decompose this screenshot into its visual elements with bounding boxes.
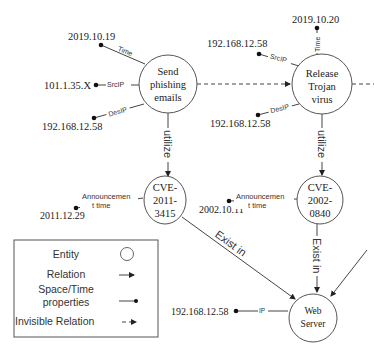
relation-incoming-edge bbox=[331, 250, 367, 296]
svg-text:3415: 3415 bbox=[155, 208, 176, 219]
relation-exist-in-2: Exist in bbox=[311, 223, 323, 292]
legend-spacetime-label: Space/Time bbox=[38, 283, 94, 295]
relation-label: utilize bbox=[316, 130, 328, 158]
legend-relation-label: Relation bbox=[47, 268, 86, 280]
property-dot-icon bbox=[92, 116, 97, 121]
svg-text:2011-: 2011- bbox=[153, 195, 178, 206]
property-label: SrcIP bbox=[107, 81, 124, 88]
property-label: Time bbox=[314, 37, 321, 52]
property-label: DesIP bbox=[270, 103, 291, 114]
property-label: DesIP bbox=[108, 106, 129, 118]
svg-text:0840: 0840 bbox=[310, 208, 331, 219]
relation-exist-in-1: Exist in bbox=[182, 217, 295, 299]
property-dot-icon bbox=[94, 83, 99, 88]
svg-text:phishing: phishing bbox=[150, 79, 187, 90]
property-trojan-desip: 192.168.12.58 DesIP bbox=[210, 100, 299, 129]
svg-text:Release: Release bbox=[306, 68, 339, 79]
property-label: Announcemen bbox=[82, 192, 130, 201]
legend-entity-label: Entity bbox=[53, 248, 80, 260]
property-phish-srcip: 101.1.35.X SrcIP bbox=[44, 80, 139, 91]
relation-utilize-1: utilize bbox=[162, 113, 174, 176]
legend-property-dot-icon bbox=[134, 299, 138, 303]
property-cve2011-announce: 2011.12.29 Announcemen t time bbox=[40, 191, 143, 221]
property-dot-icon bbox=[99, 43, 104, 48]
svg-text:Server: Server bbox=[301, 319, 327, 329]
property-label: IP bbox=[259, 307, 265, 314]
property-label: SrcIP bbox=[269, 52, 288, 64]
property-label: t time bbox=[248, 201, 266, 210]
svg-text:virus: virus bbox=[312, 94, 333, 105]
svg-text:CVE-: CVE- bbox=[308, 182, 333, 193]
property-label: t time bbox=[92, 201, 110, 210]
entity-circle bbox=[289, 294, 337, 342]
property-webserver-ip: 192.168.12.58 IP bbox=[171, 306, 288, 317]
property-value: 192.168.12.58 bbox=[207, 38, 267, 49]
legend-invisible-label: Invisible Relation bbox=[15, 315, 95, 327]
svg-text:CVE-: CVE- bbox=[153, 182, 178, 193]
property-value: 192.168.12.58 bbox=[42, 121, 102, 132]
entity-send-phishing-emails[interactable]: Send phishing emails bbox=[139, 55, 197, 113]
property-value: 192.168.12.58 bbox=[171, 306, 229, 317]
legend: Entity Relation Space/Time properties In… bbox=[14, 240, 158, 337]
property-value: 192.168.12.58 bbox=[210, 118, 270, 129]
svg-text:Web: Web bbox=[304, 306, 321, 316]
property-phish-time: 2019.10.19 Time bbox=[68, 31, 145, 64]
relation-utilize-2: utilize bbox=[316, 114, 328, 175]
property-dot-icon bbox=[227, 199, 232, 204]
property-value: 101.1.35.X bbox=[44, 80, 91, 91]
property-dot-icon bbox=[257, 52, 262, 57]
property-value: 2011.12.29 bbox=[40, 210, 85, 221]
svg-text:Trojan: Trojan bbox=[308, 81, 336, 92]
relation-label: utilize bbox=[162, 130, 174, 158]
attack-knowledge-graph: 2019.10.19 Time 101.1.35.X SrcIP 192.168… bbox=[0, 0, 374, 351]
property-dot-icon bbox=[234, 309, 239, 314]
property-value: 2019.10.19 bbox=[68, 31, 115, 42]
legend-spacetime-label: properties bbox=[43, 296, 90, 308]
entity-web-server[interactable]: Web Server bbox=[289, 294, 337, 342]
property-trojan-time: 2019.10.20 Time bbox=[292, 14, 339, 55]
property-value: 2019.10.20 bbox=[292, 14, 339, 25]
relation-label: Exist in bbox=[311, 238, 323, 273]
svg-text:Send: Send bbox=[158, 66, 180, 77]
property-dot-icon bbox=[256, 113, 261, 118]
property-dot-icon bbox=[315, 26, 320, 31]
entity-cve-2011-3415[interactable]: CVE- 2011- 3415 bbox=[144, 176, 186, 224]
property-label: Announcemen bbox=[236, 192, 284, 201]
entity-release-trojan-virus[interactable]: Release Trojan virus bbox=[292, 54, 352, 114]
svg-text:emails: emails bbox=[154, 92, 181, 103]
entity-cve-2002-0840[interactable]: CVE- 2002- 0840 bbox=[297, 176, 343, 224]
svg-text:2002-: 2002- bbox=[308, 195, 333, 206]
property-phish-desip: 192.168.12.58 DesIP bbox=[42, 103, 144, 132]
property-cve2002-announce: 2002.10.11 Announcemen t time bbox=[199, 191, 297, 215]
legend-entity-icon bbox=[121, 248, 134, 261]
property-trojan-srcip: 192.168.12.58 SrcIP bbox=[207, 38, 299, 66]
